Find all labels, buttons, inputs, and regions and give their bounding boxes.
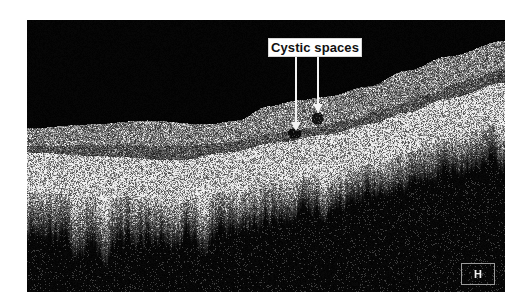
panel-label-text: H [474, 268, 482, 280]
cystic-spaces-label: Cystic spaces [268, 38, 362, 57]
cystic-spaces-label-text: Cystic spaces [271, 40, 359, 55]
oct-scan-figure: Cystic spaces H [27, 20, 505, 292]
oct-scan-image [27, 20, 505, 292]
panel-label-box: H [461, 263, 495, 285]
